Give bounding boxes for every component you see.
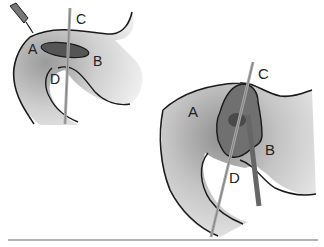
large-view: A B C D [160,62,316,237]
large-label-c: C [258,65,269,82]
diagram-canvas: A B C D A B C D [0,0,324,247]
small-label-b: B [93,53,102,69]
small-endoscope-icon [10,3,28,23]
small-label-d: D [50,71,60,87]
large-label-d: D [229,169,240,186]
small-view: A B C D [10,3,143,125]
large-label-b: B [265,141,275,158]
small-label-a: A [28,41,38,57]
small-endoscope-wire [26,22,33,33]
small-label-c: C [76,11,86,27]
large-label-a: A [188,103,198,120]
